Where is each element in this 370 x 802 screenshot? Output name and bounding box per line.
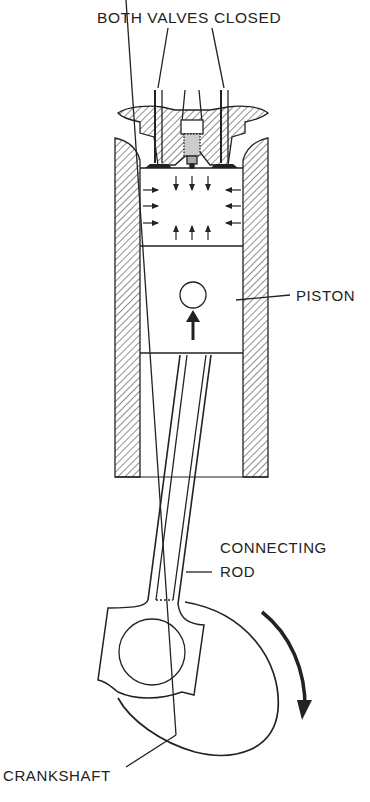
valve-leader-left [158, 28, 168, 88]
valves-label: BOTH VALVES CLOSED [97, 10, 281, 26]
piston-pin [180, 282, 206, 308]
big-end [98, 600, 204, 698]
piston [140, 246, 243, 353]
crankpin [119, 619, 185, 685]
cylinder-wall-right [243, 138, 268, 477]
piston-label: PISTON [296, 288, 355, 303]
crankshaft-label: CRANKSHAFT [3, 768, 111, 783]
valve-leader-right [212, 28, 224, 88]
compression-arrows [143, 176, 241, 240]
connecting-rod-label-line1: CONNECTING [220, 540, 327, 555]
connecting-rod-label-line2: ROD [220, 564, 255, 579]
cylinder-wall-left [115, 138, 140, 477]
connecting-rod [148, 355, 211, 604]
engine-diagram [0, 0, 370, 802]
